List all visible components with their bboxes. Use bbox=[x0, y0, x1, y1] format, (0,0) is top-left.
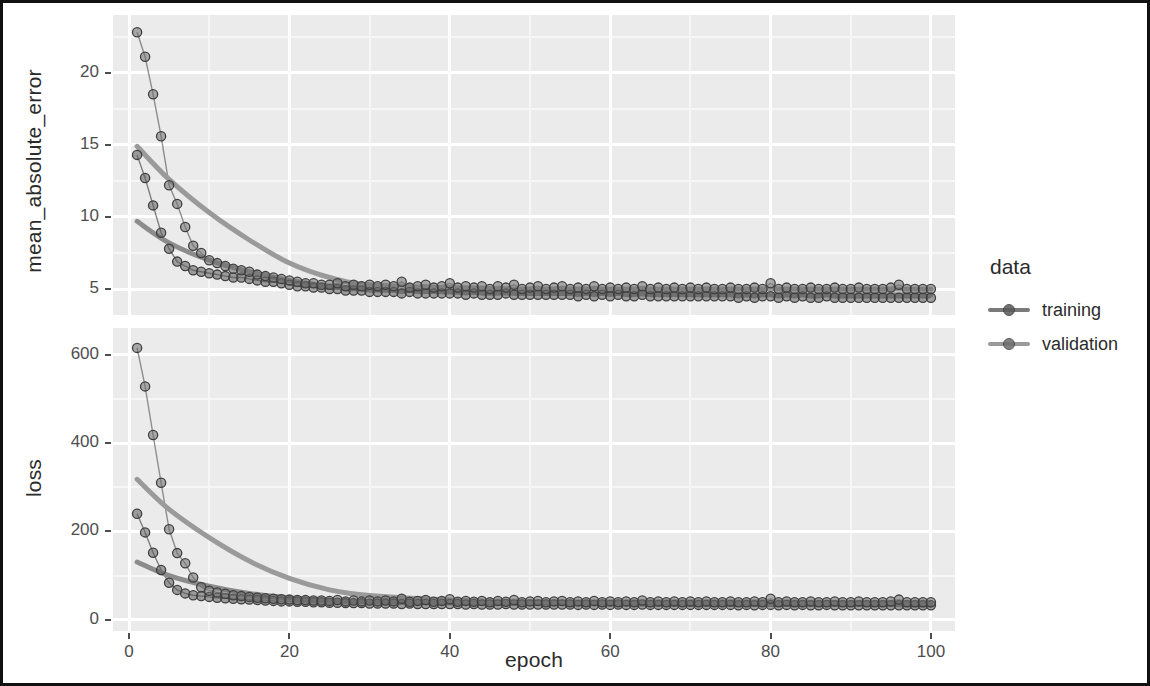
legend-label: validation bbox=[1042, 334, 1118, 355]
plot-area: mean_absolute_error loss epoch 5101520 0… bbox=[3, 3, 1150, 686]
y-tick-label: 200 bbox=[55, 520, 99, 540]
x-tick-label: 100 bbox=[917, 642, 945, 662]
x-tick-label: 60 bbox=[601, 642, 620, 662]
data-point bbox=[189, 573, 198, 582]
legend-key-icon bbox=[988, 332, 1030, 356]
data-point bbox=[141, 528, 150, 537]
y-axis-title-bottom-label: loss bbox=[22, 459, 46, 497]
legend-key-point bbox=[1003, 338, 1015, 350]
legend-title: data bbox=[990, 255, 1138, 279]
y-tick-mark bbox=[105, 72, 111, 74]
panel-loss bbox=[113, 328, 955, 631]
x-tick-mark bbox=[609, 633, 611, 639]
data-point bbox=[165, 244, 174, 253]
legend-entries: trainingvalidation bbox=[988, 293, 1138, 361]
data-point bbox=[133, 28, 142, 37]
y-tick-label: 5 bbox=[55, 278, 99, 298]
y-tick-mark bbox=[105, 288, 111, 290]
data-point bbox=[197, 248, 206, 257]
data-point bbox=[181, 559, 190, 568]
data-point bbox=[149, 430, 158, 439]
data-point bbox=[133, 150, 142, 159]
y-tick-label: 400 bbox=[55, 432, 99, 452]
smooth-line-validation bbox=[137, 146, 931, 289]
x-tick-label: 20 bbox=[280, 642, 299, 662]
x-tick-label: 80 bbox=[761, 642, 780, 662]
y-tick-label: 10 bbox=[55, 206, 99, 226]
data-point bbox=[149, 548, 158, 557]
data-point bbox=[926, 598, 935, 607]
data-point bbox=[141, 173, 150, 182]
legend-key-icon bbox=[988, 298, 1030, 322]
figure-frame: mean_absolute_error loss epoch 5101520 0… bbox=[0, 0, 1150, 686]
data-point bbox=[165, 181, 174, 190]
series-layer bbox=[113, 328, 955, 631]
data-point bbox=[149, 201, 158, 210]
y-tick-label: 20 bbox=[55, 62, 99, 82]
panel-mean-absolute-error bbox=[113, 15, 955, 315]
data-point bbox=[141, 382, 150, 391]
x-tick-label: 40 bbox=[440, 642, 459, 662]
data-point bbox=[173, 549, 182, 558]
data-point bbox=[926, 293, 935, 302]
x-tick-label: 0 bbox=[124, 642, 133, 662]
y-tick-label: 600 bbox=[55, 344, 99, 364]
data-point bbox=[766, 279, 775, 288]
data-point bbox=[149, 90, 158, 99]
series-line-validation bbox=[137, 32, 931, 289]
data-point bbox=[141, 52, 150, 61]
y-axis-title-top: mean_absolute_error bbox=[17, 41, 51, 301]
data-point bbox=[133, 509, 142, 518]
y-tick-mark bbox=[105, 354, 111, 356]
data-point bbox=[157, 228, 166, 237]
x-tick-mark bbox=[128, 633, 130, 639]
data-point bbox=[157, 565, 166, 574]
data-point bbox=[173, 199, 182, 208]
series-line-training bbox=[137, 514, 931, 606]
x-tick-mark bbox=[770, 633, 772, 639]
data-point bbox=[157, 132, 166, 141]
data-point bbox=[189, 241, 198, 250]
y-tick-label: 15 bbox=[55, 134, 99, 154]
x-axis-title: epoch bbox=[113, 648, 955, 672]
x-tick-mark bbox=[930, 633, 932, 639]
legend-label: training bbox=[1042, 300, 1101, 321]
data-point bbox=[165, 578, 174, 587]
y-tick-mark bbox=[105, 442, 111, 444]
legend-entry-validation[interactable]: validation bbox=[988, 327, 1138, 361]
y-tick-mark bbox=[105, 216, 111, 218]
x-tick-mark bbox=[449, 633, 451, 639]
y-axis-title-bottom: loss bbox=[17, 383, 51, 573]
x-tick-mark bbox=[288, 633, 290, 639]
y-tick-mark bbox=[105, 530, 111, 532]
series-layer bbox=[113, 15, 955, 315]
data-point bbox=[397, 277, 406, 286]
y-axis-title-top-label: mean_absolute_error bbox=[22, 69, 46, 272]
data-point bbox=[133, 343, 142, 352]
smooth-line-validation bbox=[137, 479, 931, 602]
y-tick-label: 0 bbox=[55, 609, 99, 629]
y-tick-mark bbox=[105, 144, 111, 146]
data-point bbox=[157, 478, 166, 487]
data-point bbox=[926, 284, 935, 293]
data-point bbox=[165, 525, 174, 534]
legend: data trainingvalidation bbox=[988, 255, 1138, 361]
legend-entry-training[interactable]: training bbox=[988, 293, 1138, 327]
data-point bbox=[181, 222, 190, 231]
data-point bbox=[758, 284, 767, 293]
y-tick-mark bbox=[105, 619, 111, 621]
legend-key-point bbox=[1003, 304, 1015, 316]
